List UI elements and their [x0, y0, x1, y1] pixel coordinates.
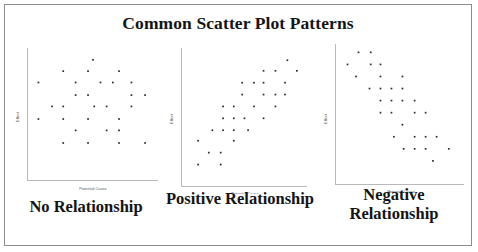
data-point: [100, 82, 102, 84]
data-points: [197, 59, 297, 165]
data-point: [391, 88, 393, 90]
data-point: [106, 130, 108, 132]
data-point: [414, 112, 416, 114]
data-point: [425, 112, 427, 114]
data-point: [220, 164, 222, 166]
figure-container: Common Scatter Plot Patterns Potential C…: [4, 4, 472, 246]
plot-axes: [336, 44, 465, 185]
data-point: [233, 140, 235, 142]
data-point: [241, 82, 243, 84]
data-point: [369, 88, 371, 90]
data-point: [284, 94, 286, 96]
data-point: [62, 118, 64, 120]
data-point: [197, 164, 199, 166]
scatter-plot-negative-relationship: Potential Cause Effect: [319, 39, 469, 194]
data-point: [222, 106, 224, 108]
data-point: [112, 82, 114, 84]
data-point: [244, 117, 246, 119]
data-point: [233, 129, 235, 131]
scatter-plot-no-relationship: Potential Cause Effect: [11, 39, 161, 194]
data-point: [222, 117, 224, 119]
data-point: [106, 106, 108, 108]
plot-axes: [182, 48, 308, 187]
data-point: [92, 59, 94, 61]
data-point: [144, 142, 146, 144]
data-point: [402, 88, 404, 90]
data-point: [414, 100, 416, 102]
data-point: [436, 136, 438, 138]
page-title: Common Scatter Plot Patterns: [5, 13, 471, 34]
data-point: [275, 94, 277, 96]
data-point: [75, 130, 77, 132]
y-axis-label: Effect: [169, 113, 174, 124]
data-point: [380, 88, 382, 90]
data-point: [38, 82, 40, 84]
data-point: [87, 118, 89, 120]
data-point: [253, 82, 255, 84]
data-point: [131, 94, 133, 96]
data-point: [393, 136, 395, 138]
data-point: [370, 64, 372, 66]
y-axis-label: Effect: [15, 111, 20, 122]
panel-caption-positive-relationship: Positive Relationship: [165, 189, 315, 208]
data-point: [402, 76, 404, 78]
data-point: [263, 82, 265, 84]
data-point: [118, 142, 120, 144]
scatter-panel-no-relationship: Potential Cause Effect No Relationship: [11, 39, 161, 244]
data-point: [118, 70, 120, 72]
data-point: [197, 140, 199, 142]
data-point: [75, 82, 77, 84]
data-point: [263, 117, 265, 119]
data-point: [241, 94, 243, 96]
data-point: [93, 106, 95, 108]
data-point: [448, 148, 450, 150]
data-point: [233, 106, 235, 108]
data-point: [286, 59, 288, 61]
data-point: [358, 52, 360, 54]
data-point: [263, 94, 265, 96]
data-point: [118, 130, 120, 132]
scatter-panel-positive-relationship: Potential Cause Effect Positive Relation…: [165, 39, 315, 244]
data-point: [212, 129, 214, 131]
y-axis-label: Effect: [323, 113, 328, 124]
data-point: [253, 106, 255, 108]
data-points: [38, 59, 146, 144]
data-point: [263, 70, 265, 72]
data-point: [402, 100, 404, 102]
data-point: [370, 52, 372, 54]
data-point: [391, 112, 393, 114]
plot-axes: [28, 48, 159, 181]
data-point: [131, 82, 133, 84]
data-point: [380, 112, 382, 114]
data-point: [233, 117, 235, 119]
panel-caption-negative-relationship: Negative Relationship: [319, 185, 469, 223]
data-point: [296, 70, 298, 72]
data-point: [38, 118, 40, 120]
data-point: [275, 106, 277, 108]
data-point: [414, 136, 416, 138]
data-point: [425, 148, 427, 150]
data-point: [51, 106, 53, 108]
data-point: [380, 100, 382, 102]
data-point: [247, 129, 249, 131]
scatter-panel-negative-relationship: Potential Cause Effect Negative Relation…: [319, 39, 469, 244]
data-point: [355, 76, 357, 78]
panel-caption-no-relationship: No Relationship: [11, 197, 161, 216]
data-point: [118, 118, 120, 120]
data-point: [414, 148, 416, 150]
data-point: [403, 148, 405, 150]
data-point: [425, 136, 427, 138]
data-point: [432, 160, 434, 162]
data-point: [75, 94, 77, 96]
data-point: [208, 152, 210, 154]
x-axis-label: Potential Cause: [79, 186, 106, 191]
data-points: [347, 52, 450, 162]
data-point: [87, 70, 89, 72]
data-point: [275, 70, 277, 72]
scatter-plot-positive-relationship: Potential Cause Effect: [165, 39, 315, 194]
data-point: [62, 142, 64, 144]
data-point: [402, 124, 404, 126]
data-point: [131, 106, 133, 108]
data-point: [220, 152, 222, 154]
data-point: [87, 142, 89, 144]
